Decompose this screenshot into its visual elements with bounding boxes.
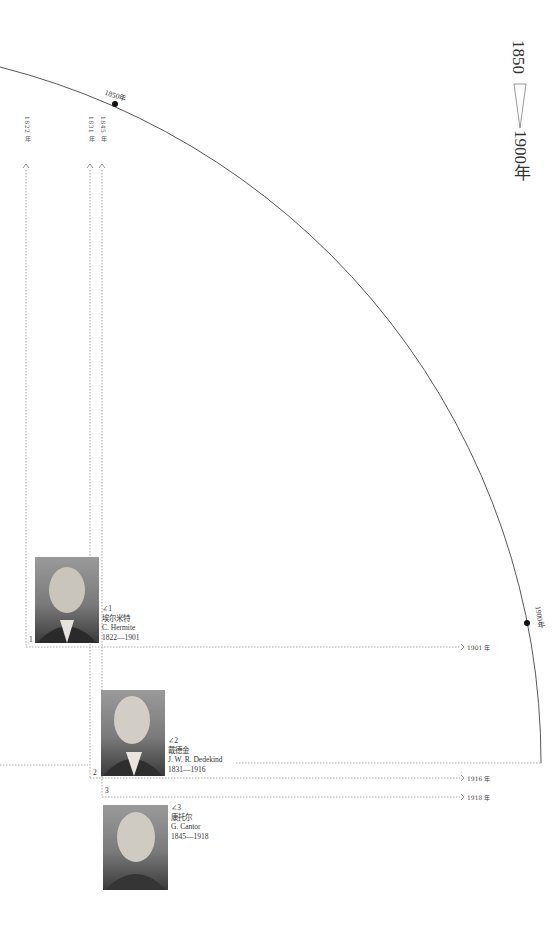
portrait-cantor	[103, 805, 168, 890]
ref-label: ∠2	[168, 736, 223, 746]
index-hermite: 1	[29, 635, 33, 644]
name-zh: 戴德金	[168, 746, 223, 756]
chevron-up-icon	[87, 164, 93, 168]
name-en: G. Cantor	[171, 822, 209, 832]
lifespan: 1831—1916	[168, 765, 223, 775]
name-en: J. W. R. Dedekind	[168, 755, 223, 765]
range-end-year: 1900年	[508, 130, 533, 181]
birth-marker-1822: 1822 年	[23, 116, 32, 142]
chevron-right-icon	[461, 644, 464, 650]
caption-cantor: ∠3 康托尔 G. Cantor 1845—1918	[171, 803, 209, 841]
chevron-right-icon	[461, 794, 464, 800]
timeline-diagram	[0, 0, 560, 930]
birth-marker-1831: 1831 年	[87, 116, 96, 142]
range-start-year: 1850	[508, 40, 528, 74]
lifespan: 1845—1918	[171, 832, 209, 842]
name-zh: 康托尔	[171, 813, 209, 823]
caption-hermite: ∠1 埃尔米特 C. Hermite 1822—1901	[102, 604, 140, 642]
index-dedekind: 2	[93, 768, 97, 777]
name-en: C. Hermite	[102, 623, 140, 633]
range-wedge-icon	[514, 84, 526, 128]
ref-label: ∠3	[171, 803, 209, 813]
portrait-dedekind	[101, 690, 165, 776]
name-zh: 埃尔米特	[102, 614, 140, 624]
lifespan: 1822—1901	[102, 633, 140, 643]
chevron-up-icon	[23, 164, 29, 168]
birth-marker-1845: 1845 年	[99, 116, 108, 142]
ref-label: ∠1	[102, 604, 140, 614]
chevron-right-icon	[461, 775, 464, 781]
death-marker-1901: 1901 年	[467, 643, 490, 652]
chevron-up-icon	[99, 164, 105, 168]
death-marker-1918: 1918 年	[467, 793, 490, 802]
year-dot-1900	[524, 620, 530, 626]
portrait-hermite	[35, 557, 99, 643]
index-cantor: 3	[105, 786, 109, 795]
timeline-arc	[0, 67, 541, 763]
year-dot-1850	[112, 101, 118, 107]
death-marker-1916: 1916 年	[467, 774, 490, 783]
caption-dedekind: ∠2 戴德金 J. W. R. Dedekind 1831—1916	[168, 736, 223, 774]
